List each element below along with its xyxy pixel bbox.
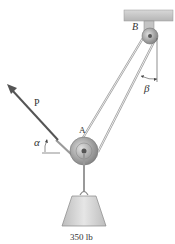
beta-label: β: [143, 82, 150, 94]
pulley-b: [142, 28, 158, 44]
pulley-a-label: A: [79, 125, 86, 135]
pulley-diagram: β B P α A 350 lb: [0, 0, 175, 244]
load-label: 350 lb: [70, 232, 93, 242]
force-label: P: [34, 97, 40, 108]
pulley-b-label: B: [132, 21, 138, 32]
weight: [62, 196, 106, 226]
cables: [56, 36, 157, 155]
hook: [80, 192, 88, 196]
force-arrow-p: [7, 84, 58, 140]
beta-reference: [141, 38, 157, 82]
alpha-label: α: [34, 136, 40, 148]
